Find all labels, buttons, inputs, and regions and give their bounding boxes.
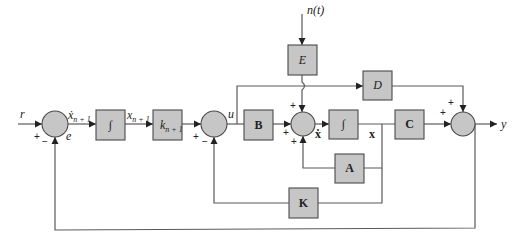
block-integrator-1: ∫	[96, 110, 125, 140]
summing-junction-state	[291, 112, 315, 136]
block-integrator-2: ∫	[329, 110, 358, 139]
wire-K-to-sum2	[214, 137, 289, 203]
block-K-label: K	[299, 196, 309, 210]
integral-icon: ∫	[108, 118, 113, 132]
block-B-label: B	[254, 118, 262, 132]
block-D-label: D	[372, 78, 382, 92]
summing-junction-output	[451, 112, 475, 136]
block-C-label: C	[405, 117, 414, 131]
sign-sum1-minus: −	[42, 136, 48, 147]
integral-icon: ∫	[341, 117, 346, 131]
gain-k-subscript: n + 1	[165, 125, 182, 134]
summing-junction-control	[201, 111, 227, 137]
signal-u-label: u	[228, 107, 234, 121]
block-D: D	[363, 71, 392, 100]
block-gain-k: kn + 1	[153, 110, 183, 140]
sign-sum2-minus: −	[202, 136, 208, 147]
block-B: B	[244, 110, 273, 140]
signal-xdot-label: ẋ	[315, 127, 321, 141]
sign-sum3-plus-left: +	[283, 127, 289, 138]
signal-r-label: r	[20, 107, 25, 121]
signal-x-n1-subscript: n + 1	[132, 115, 149, 124]
signal-y-label: y	[500, 117, 507, 131]
block-E: E	[288, 45, 317, 75]
block-C: C	[395, 110, 424, 139]
block-K: K	[289, 188, 318, 218]
sign-sum4-plus-left: +	[440, 107, 446, 118]
block-diagram: ∫ kn + 1 B ∫ C D E A K r n(t) y e ẋn + 1…	[0, 0, 515, 240]
block-E-label: E	[298, 53, 307, 67]
block-A: A	[335, 154, 364, 183]
signal-x-label: x	[369, 127, 375, 141]
sign-sum1-plus: +	[34, 131, 40, 142]
sign-sum4-plus-top: +	[448, 97, 454, 108]
signal-xdot-n1-subscript: n + 1	[73, 115, 90, 124]
signal-e-label: e	[66, 129, 72, 143]
svg-text:ẋn + 1: ẋn + 1	[67, 108, 91, 124]
sign-sum3-plus-bottom: +	[291, 136, 297, 147]
svg-text:xn + 1: xn + 1	[126, 108, 150, 124]
sign-sum3-plus-top: +	[290, 100, 296, 111]
summing-junction-error	[42, 111, 68, 137]
block-A-label: A	[345, 161, 354, 175]
sign-sum2-plus: +	[193, 131, 199, 142]
signal-n-label: n(t)	[307, 3, 324, 17]
wire-E-to-sum3	[302, 75, 305, 112]
